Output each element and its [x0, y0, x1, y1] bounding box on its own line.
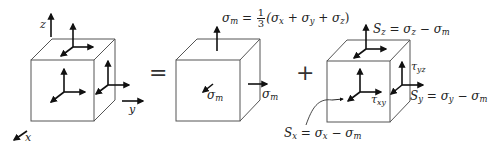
top-face-stress-triad-icon	[61, 24, 93, 56]
one-third-fraction: 13	[257, 8, 265, 29]
sy-formula: Sy = σy − σm	[410, 90, 487, 102]
cube-general-stress	[14, 14, 143, 140]
y-axis-label: y	[129, 104, 135, 115]
tau-xy-label: τxy	[371, 94, 386, 105]
right-face-stress-triad-icon	[96, 61, 129, 94]
sz-formula: Sz = σz − σm	[373, 23, 450, 35]
x-axis-label: x	[25, 132, 31, 143]
sx-leader-arrow-icon	[332, 99, 343, 100]
mean-stress-formula: σm = 13(σx + σy + σz)	[222, 8, 349, 29]
front-mean-stress-label: σm	[207, 89, 223, 101]
tau-yz-label: τyz	[411, 61, 426, 72]
cube-mean-stress	[176, 27, 267, 121]
cube-deviatoric-stress	[306, 25, 423, 125]
z-axis-label: z	[40, 19, 46, 30]
stress-decomposition-diagram: z y x = + σm = 13(σx + σy + σz) σm σm Sz…	[0, 0, 491, 154]
plus-sign: +	[296, 62, 314, 84]
right-mean-stress-label: σm	[262, 88, 278, 100]
equals-sign: =	[149, 62, 167, 84]
sx-leader-line	[306, 100, 332, 125]
sx-formula: Sx = σx − σm	[284, 127, 361, 139]
front-face-stress-triad-icon	[51, 69, 85, 102]
